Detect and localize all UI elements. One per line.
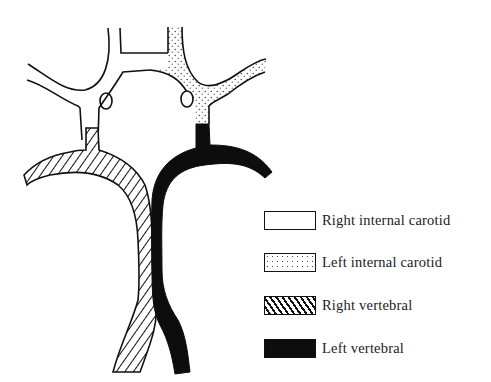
legend-item-left-vertebral: Left vertebral (264, 337, 404, 359)
legend-label: Right vertebral (322, 297, 412, 314)
hatched-swatch-icon (264, 296, 316, 315)
left-vertebral-region (152, 124, 272, 374)
legend-label: Left internal carotid (322, 254, 442, 271)
black-swatch-icon (264, 339, 316, 358)
legend-label: Right internal carotid (322, 212, 450, 229)
white-swatch-icon (264, 211, 316, 230)
circle-of-willis-diagram (0, 0, 491, 382)
legend-item-right-vertebral: Right vertebral (264, 294, 412, 316)
legend-item-left-internal-carotid: Left internal carotid (264, 251, 442, 273)
right-vertebral-region (24, 128, 156, 372)
left-internal-carotid-region (150, 27, 266, 124)
legend-label: Left vertebral (322, 340, 404, 357)
right-internal-carotid-region (27, 28, 170, 140)
stippled-swatch-icon (264, 253, 316, 272)
legend-item-right-internal-carotid: Right internal carotid (264, 209, 450, 231)
